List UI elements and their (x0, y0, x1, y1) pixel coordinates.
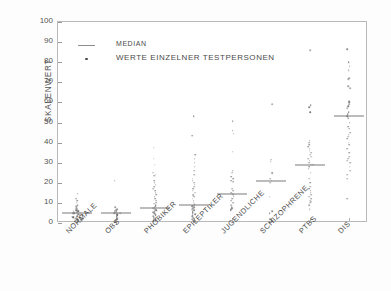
data-point (155, 190, 157, 192)
data-point (154, 164, 156, 166)
data-point (76, 200, 78, 202)
data-point (194, 174, 196, 176)
data-point (194, 166, 196, 168)
data-point (309, 204, 311, 206)
data-point (271, 104, 273, 106)
data-point (346, 174, 348, 176)
data-point (349, 132, 351, 134)
data-point (154, 196, 156, 198)
y-axis-tick-mark (58, 102, 62, 103)
y-axis-tick-mark (58, 42, 62, 43)
data-point (192, 188, 194, 190)
data-point (155, 192, 157, 194)
data-point (232, 202, 234, 204)
data-point (349, 88, 351, 90)
data-point (308, 158, 310, 160)
data-point (231, 188, 233, 190)
data-point (153, 147, 155, 149)
data-point (77, 204, 79, 206)
data-point (230, 200, 232, 202)
data-point (348, 112, 350, 114)
data-point (231, 206, 233, 208)
data-point (310, 105, 312, 107)
data-point (270, 159, 272, 161)
data-point (156, 200, 158, 202)
data-point (349, 77, 351, 79)
data-point (308, 146, 310, 148)
data-point (193, 209, 195, 211)
data-point (194, 184, 196, 186)
data-point (310, 172, 312, 174)
data-point (156, 194, 158, 196)
data-point (153, 186, 155, 188)
median-line (256, 180, 286, 181)
y-axis-tick-label: 20 (31, 178, 53, 186)
data-point (76, 202, 78, 204)
data-point (156, 202, 158, 204)
data-point (348, 61, 350, 63)
data-point (194, 182, 196, 184)
data-point (310, 200, 312, 202)
data-point (347, 48, 349, 50)
y-axis-tick-label: 50 (31, 118, 53, 126)
data-point (346, 160, 348, 162)
data-point (309, 186, 311, 188)
legend-item-median: MEDIAN (78, 40, 278, 53)
data-point (269, 196, 271, 198)
data-point (232, 151, 234, 153)
data-point (154, 182, 156, 184)
data-point (192, 180, 194, 182)
legend-label-median: MEDIAN (116, 40, 147, 47)
y-axis-tick-mark (58, 123, 62, 124)
data-point (309, 112, 311, 114)
y-axis-tick-mark (58, 82, 62, 83)
y-axis-tick-label: 90 (31, 37, 53, 45)
data-point (348, 86, 350, 88)
data-point (153, 172, 155, 174)
y-axis-tick-mark (58, 183, 62, 184)
data-point (232, 170, 234, 172)
data-point (310, 194, 312, 196)
data-point (194, 162, 196, 164)
data-point (233, 133, 235, 135)
data-point (194, 170, 196, 172)
y-axis-title: SKALENWERT (44, 31, 53, 151)
data-point (310, 49, 312, 51)
data-point (349, 128, 351, 130)
data-point (153, 188, 155, 190)
data-point (193, 186, 195, 188)
data-point (271, 210, 273, 212)
data-point (231, 172, 233, 174)
data-point (348, 104, 350, 106)
data-point (347, 198, 349, 200)
y-axis-tick-label: 0 (31, 218, 53, 226)
data-point (346, 138, 348, 140)
data-point (309, 140, 311, 142)
data-point (347, 158, 349, 160)
data-point (348, 142, 350, 144)
data-point (308, 142, 310, 144)
data-point (346, 178, 348, 180)
chart-legend: MEDIAN WERTE EINZELNER TESTPERSONEN (78, 40, 278, 66)
data-point (309, 160, 311, 162)
y-axis-tick-label: 60 (31, 97, 53, 105)
data-point (192, 194, 194, 196)
data-point (194, 158, 196, 160)
data-point (348, 69, 350, 71)
data-point (308, 196, 310, 198)
data-point (193, 200, 195, 202)
y-axis-tick-label: 40 (31, 138, 53, 146)
y-axis-tick-mark (58, 203, 62, 204)
data-point (194, 192, 196, 194)
median-line (101, 212, 131, 213)
data-point (192, 198, 194, 200)
data-point (114, 206, 116, 208)
y-axis-tick-mark (58, 163, 62, 164)
legend-label-values: WERTE EINZELNER TESTPERSONEN (116, 53, 275, 62)
data-point (272, 172, 274, 174)
data-point (346, 148, 348, 150)
legend-item-values: WERTE EINZELNER TESTPERSONEN (78, 53, 278, 66)
data-point (194, 206, 196, 208)
dot-plot-chart: SKALENWERT 0102030405060708090100 NORMAL… (0, 0, 391, 291)
data-point (346, 108, 348, 110)
